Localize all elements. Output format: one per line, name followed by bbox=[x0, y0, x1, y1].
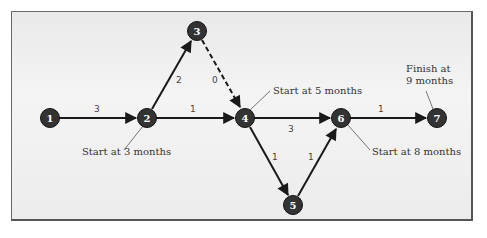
svg-text:3: 3 bbox=[194, 26, 201, 37]
edge-2-3 bbox=[152, 41, 191, 109]
weight-5-6: 1 bbox=[308, 152, 314, 162]
edge-4-5 bbox=[250, 127, 288, 195]
leader-node6 bbox=[347, 124, 370, 150]
weight-2-3: 2 bbox=[176, 75, 182, 85]
network-diagram: 3 2 0 1 3 1 1 1 Start at 3 months Start … bbox=[0, 0, 487, 238]
node-2: 2 bbox=[138, 109, 157, 128]
edge-3-4 bbox=[202, 40, 240, 107]
svg-text:2: 2 bbox=[144, 113, 151, 124]
annotation-node4: Start at 5 months bbox=[273, 85, 362, 96]
svg-text:6: 6 bbox=[338, 113, 345, 124]
node-4: 4 bbox=[236, 109, 255, 128]
weight-3-4: 0 bbox=[212, 75, 218, 85]
svg-text:7: 7 bbox=[434, 113, 441, 124]
weight-4-6: 3 bbox=[288, 124, 294, 134]
weight-4-5: 1 bbox=[272, 152, 278, 162]
node-1: 1 bbox=[41, 109, 60, 128]
edge-5-6 bbox=[298, 129, 336, 196]
annotation-node7-line1: Finish at bbox=[406, 63, 451, 74]
svg-text:1: 1 bbox=[47, 113, 54, 124]
leader-node7 bbox=[426, 91, 433, 109]
svg-text:4: 4 bbox=[242, 113, 249, 124]
node-6: 6 bbox=[332, 109, 351, 128]
annotation-node7-line2: 9 months bbox=[406, 75, 453, 86]
annotation-node2: Start at 3 months bbox=[82, 146, 171, 157]
weight-1-2: 3 bbox=[94, 104, 100, 114]
node-7: 7 bbox=[428, 109, 447, 128]
weight-2-4: 1 bbox=[190, 104, 196, 114]
node-3: 3 bbox=[188, 22, 207, 41]
node-5: 5 bbox=[284, 196, 303, 215]
leader-node4 bbox=[250, 91, 270, 110]
weight-6-7: 1 bbox=[378, 104, 384, 114]
svg-text:5: 5 bbox=[290, 200, 297, 211]
annotation-node6: Start at 8 months bbox=[372, 146, 461, 157]
